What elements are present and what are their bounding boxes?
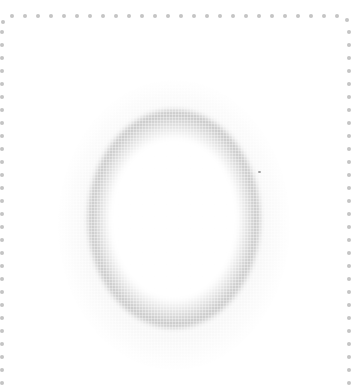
frame-dot [347, 368, 351, 372]
speck [258, 171, 261, 173]
frame-dot [0, 134, 4, 138]
frame-dot [0, 147, 4, 151]
frame-dot [347, 303, 351, 307]
frame-dot [0, 108, 4, 112]
frame-dot [335, 14, 339, 18]
frame-dot [347, 342, 351, 346]
frame-dot [0, 381, 4, 385]
frame-dot [0, 199, 4, 203]
frame-dot [347, 30, 351, 34]
frame-dot [347, 82, 351, 86]
frame-dot [127, 14, 131, 18]
frame-dot [347, 225, 351, 229]
frame-dot [0, 121, 4, 125]
frame-dot [347, 56, 351, 60]
frame-dot [244, 14, 248, 18]
frame-dot [347, 199, 351, 203]
frame-dot [347, 381, 351, 385]
frame-dot [270, 14, 274, 18]
frame-dot [179, 14, 183, 18]
frame-dot [23, 14, 27, 18]
frame-dot [347, 316, 351, 320]
frame-dot [0, 316, 4, 320]
frame-dot [0, 43, 4, 47]
frame-dot [347, 134, 351, 138]
frame-dot [347, 43, 351, 47]
frame-dot [309, 14, 313, 18]
frame-dot [283, 14, 287, 18]
frame-dot [347, 147, 351, 151]
frame-dot [0, 329, 4, 333]
frame-dot [347, 290, 351, 294]
frame-dot [88, 14, 92, 18]
frame-dot [345, 18, 349, 22]
frame-dot [0, 277, 4, 281]
frame-dot [0, 251, 4, 255]
frame-dot [347, 121, 351, 125]
frame-dot [347, 238, 351, 242]
frame-dot [347, 251, 351, 255]
frame-dot [347, 277, 351, 281]
frame-dot [0, 56, 4, 60]
frame-dot [347, 355, 351, 359]
frame-dot [347, 264, 351, 268]
frame-dot [347, 95, 351, 99]
frame-dot [62, 14, 66, 18]
oval-ring [88, 110, 260, 328]
frame-dot [347, 212, 351, 216]
frame-dot [0, 186, 4, 190]
frame-dot [347, 329, 351, 333]
frame-dot [1, 20, 5, 24]
frame-dot [0, 160, 4, 164]
frame-dot [0, 212, 4, 216]
frame-dot [231, 14, 235, 18]
frame-dot [192, 14, 196, 18]
frame-dot [0, 225, 4, 229]
frame-dot [0, 173, 4, 177]
frame-dot [0, 95, 4, 99]
frame-dot [75, 14, 79, 18]
frame-dot [205, 14, 209, 18]
frame-dot [114, 14, 118, 18]
frame-dot [0, 342, 4, 346]
frame-dot [0, 355, 4, 359]
frame-dot [153, 14, 157, 18]
frame-dot [296, 14, 300, 18]
frame-dot [347, 108, 351, 112]
frame-dot [0, 69, 4, 73]
frame-dot [322, 14, 326, 18]
frame-dot [347, 69, 351, 73]
frame-dot [257, 14, 261, 18]
frame-dot [101, 14, 105, 18]
frame-dot [0, 290, 4, 294]
frame-dot [0, 30, 4, 34]
frame-dot [347, 173, 351, 177]
frame-dot [0, 238, 4, 242]
frame-dot [36, 14, 40, 18]
frame-dot [218, 14, 222, 18]
frame-dot [347, 160, 351, 164]
frame-dot [0, 368, 4, 372]
frame-dot [347, 186, 351, 190]
frame-dot [0, 303, 4, 307]
frame-dot [0, 264, 4, 268]
frame-dot [166, 14, 170, 18]
frame-dot [0, 82, 4, 86]
frame-dot [140, 14, 144, 18]
frame-dot [49, 14, 53, 18]
frame-dot [10, 14, 14, 18]
